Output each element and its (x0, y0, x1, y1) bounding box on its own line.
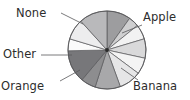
leader-line-none (61, 13, 83, 24)
pie-chart-figure: None Apple Other Orange Banana (0, 0, 190, 100)
pie-label-other: Other (3, 49, 36, 61)
pie-label-apple: Apple (143, 12, 176, 24)
pie-label-orange: Orange (1, 81, 44, 93)
pie-label-banana: Banana (133, 81, 177, 93)
pie-center-dot (105, 48, 109, 52)
pie-label-none: None (16, 8, 46, 20)
